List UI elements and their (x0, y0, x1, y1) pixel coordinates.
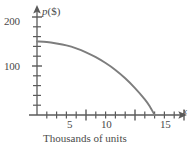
y-axis-title: p($) (42, 6, 60, 17)
y-axis-tick-label-200: 200 (4, 16, 20, 27)
demand-curve-line (37, 42, 155, 116)
y-axis-tick-label-100: 100 (4, 61, 20, 72)
x-axis-tick-label-10: 10 (101, 119, 112, 130)
x-axis-caption: Thousands of units (43, 133, 127, 144)
x-axis-tick-label-15: 15 (160, 119, 171, 130)
x-axis-tick-label-5: 5 (67, 119, 72, 130)
demand-curve-figure: 200 100 5 10 15 p($) x Thousands of unit… (0, 0, 192, 151)
x-axis-title-symbol: x (183, 107, 187, 116)
y-axis-title-unit: ($) (48, 5, 61, 17)
